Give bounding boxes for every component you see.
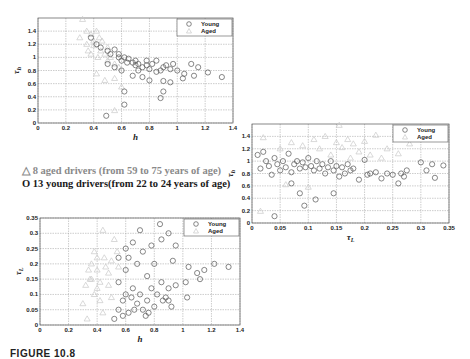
aged-data-point xyxy=(108,258,114,263)
young-data-point xyxy=(345,162,350,167)
aged-data-point xyxy=(395,151,401,156)
young-data-point xyxy=(161,78,166,83)
young-data-point xyxy=(283,165,288,170)
young-data-point xyxy=(258,166,263,171)
y-tick-label: 1 xyxy=(247,158,251,164)
young-data-point xyxy=(112,316,117,321)
young-data-point xyxy=(116,255,121,260)
young-data-point xyxy=(261,149,266,154)
young-data-point xyxy=(149,286,154,291)
y-tick-label: 0.15 xyxy=(26,276,38,282)
aged-data-point xyxy=(84,316,90,321)
aged-data-point xyxy=(300,143,306,148)
chart-bottom-left: 00.20.40.60.811.21.400.050.10.150.20.250… xyxy=(13,215,245,344)
aged-data-point xyxy=(112,75,118,80)
aged-data-point xyxy=(84,41,90,46)
young-data-point xyxy=(143,313,148,318)
x-tick-label: 0.8 xyxy=(145,125,154,131)
young-data-point xyxy=(404,168,409,173)
x-tick-label: 1.4 xyxy=(236,327,245,333)
driver-group-legend: △ 8 aged drivers (from 59 to 75 years of… xyxy=(22,164,230,190)
aged-data-point xyxy=(336,122,342,127)
y-tick-label: 0.25 xyxy=(26,246,38,252)
x-tick-label: 1 xyxy=(176,125,180,131)
young-data-point xyxy=(286,151,291,156)
young-data-point xyxy=(430,162,435,167)
young-data-point xyxy=(186,264,191,269)
aged-data-point xyxy=(80,16,86,21)
aged-data-point xyxy=(106,270,112,275)
young-data-point xyxy=(289,181,294,186)
young-data-point xyxy=(195,270,200,275)
young-data-point xyxy=(183,280,188,285)
y-tick-label: 0.2 xyxy=(28,107,37,113)
aged-data-point xyxy=(94,28,100,33)
young-data-point xyxy=(163,295,168,300)
young-data-point xyxy=(130,240,135,245)
young-data-point xyxy=(189,61,194,66)
young-data-point xyxy=(255,152,260,157)
young-data-point xyxy=(292,162,297,167)
young-data-point xyxy=(191,73,196,78)
y-tick-label: 0.4 xyxy=(242,195,251,201)
young-data-point xyxy=(154,58,159,63)
young-data-point xyxy=(169,304,174,309)
young-data-point xyxy=(297,166,302,171)
circle-icon: O xyxy=(22,178,30,189)
young-data-point xyxy=(149,243,154,248)
x-tick-label: 0.2 xyxy=(360,225,369,231)
young-drivers-legend-line: O 13 young drivers(from 22 to 24 years o… xyxy=(22,177,230,190)
young-data-point xyxy=(112,47,117,52)
x-tick-label: 0.8 xyxy=(150,327,159,333)
y-axis-label: τL xyxy=(13,267,24,275)
young-data-point xyxy=(339,165,344,170)
aged-data-point xyxy=(311,136,317,141)
y-tick-label: 1.4 xyxy=(242,133,251,139)
young-data-point xyxy=(140,74,145,79)
aged-data-point xyxy=(77,35,83,40)
young-data-point xyxy=(157,222,162,227)
y-tick-label: 0.8 xyxy=(28,68,37,74)
young-data-point xyxy=(105,48,110,53)
aged-data-point xyxy=(384,146,390,151)
aged-data-point xyxy=(260,135,266,140)
y-tick-label: 0.8 xyxy=(242,171,251,177)
chart-legend: YoungAged xyxy=(184,219,239,236)
legend-aged-label: Aged xyxy=(208,228,223,234)
aged-data-point xyxy=(102,77,108,82)
young-data-point xyxy=(137,228,142,233)
chart-right: 00.050.10.150.20.250.30.3500.20.40.60.81… xyxy=(225,122,455,243)
aged-data-point xyxy=(288,140,294,145)
aged-data-point xyxy=(97,279,103,284)
y-tick-label: 0.3 xyxy=(30,230,39,236)
young-data-point xyxy=(202,267,207,272)
legend-young-label: Young xyxy=(208,221,227,227)
aged-data-point xyxy=(317,146,323,151)
chart-legend: YoungAged xyxy=(393,125,448,142)
young-data-point xyxy=(180,76,185,81)
young-data-point xyxy=(112,65,117,70)
y-tick-label: 1 xyxy=(33,54,37,60)
legend-aged-label: Aged xyxy=(417,134,432,140)
legend-young-label: Young xyxy=(201,21,220,27)
figure-caption: FIGURE 10.8 xyxy=(10,348,76,359)
young-data-point xyxy=(140,249,145,254)
young-data-point xyxy=(130,73,135,78)
aged-data-point xyxy=(116,264,122,269)
young-data-point xyxy=(159,237,164,242)
aged-data-point xyxy=(348,155,354,160)
x-tick-label: 0 xyxy=(36,125,40,131)
young-data-point xyxy=(130,286,135,291)
young-data-point xyxy=(135,301,140,306)
young-data-point xyxy=(104,113,109,118)
young-data-point xyxy=(158,95,163,100)
young-data-point xyxy=(173,243,178,248)
y-tick-label: 1.4 xyxy=(28,28,37,34)
aged-data-point xyxy=(101,255,107,260)
young-data-point xyxy=(120,313,125,318)
aged-data-point xyxy=(328,152,334,157)
young-data-point xyxy=(432,175,437,180)
young-data-point xyxy=(325,165,330,170)
young-data-point xyxy=(171,61,176,66)
x-tick-label: 0.4 xyxy=(93,327,102,333)
